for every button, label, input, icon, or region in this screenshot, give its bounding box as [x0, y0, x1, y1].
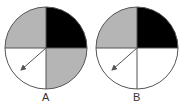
spinner-a-label: A — [42, 91, 49, 103]
spinner-b-bottom-right — [137, 48, 178, 89]
spinner-b-top-right — [137, 7, 178, 48]
spinner-b — [96, 7, 178, 89]
spinners-diagram — [0, 0, 181, 107]
spinner-a-top-left — [5, 7, 46, 48]
spinner-a — [5, 7, 87, 89]
spinner-a-top-right — [46, 7, 87, 48]
spinner-b-top-left — [96, 7, 137, 48]
spinner-a-bottom-left — [5, 48, 46, 89]
spinner-a-bottom-right — [46, 48, 87, 89]
spinner-b-bottom-left — [96, 48, 137, 89]
spinner-b-label: B — [133, 91, 140, 103]
